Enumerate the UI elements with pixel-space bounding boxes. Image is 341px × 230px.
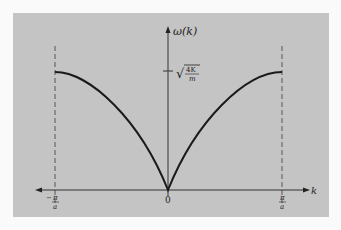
y-axis-label: ω(k)	[173, 25, 197, 38]
dispersion-diagram: ω(k) k 0 √ 4K m − π a π a	[0, 0, 341, 230]
k-axis-right-arrow	[303, 188, 310, 193]
max-numerator: 4K	[186, 66, 196, 74]
max-denominator: m	[189, 75, 196, 83]
left-bound-sign: −	[46, 194, 52, 202]
right-bound-denominator: a	[280, 203, 284, 211]
origin-label: 0	[165, 195, 171, 205]
radical-sign: √	[176, 66, 185, 81]
k-axis-left-arrow	[35, 188, 42, 193]
right-bound-numerator: π	[279, 194, 285, 202]
omega-axis-arrow	[166, 26, 171, 33]
left-bound-denominator: a	[53, 203, 57, 211]
left-bound-numerator: π	[52, 194, 58, 202]
x-axis-label: k	[311, 185, 317, 196]
